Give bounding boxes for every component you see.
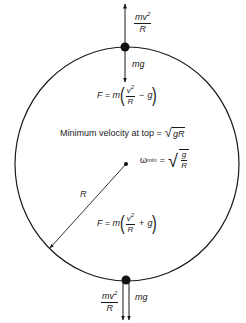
omega-min-equation: ωmin = √gR <box>140 149 190 170</box>
minimum-velocity-equation: Minimum velocity at top = √gR <box>60 126 185 139</box>
top-centripetal-force-label: mv2 R <box>134 11 151 34</box>
bottom-mass-dot <box>122 276 131 285</box>
center-dot <box>124 162 128 166</box>
bottom-net-force-equation: F = m ( v2R + g ) <box>97 212 157 234</box>
radius-label: R <box>80 190 87 199</box>
top-weight-label: mg <box>132 60 145 69</box>
radius-arrow <box>50 164 126 248</box>
bottom-weight-label: mg <box>135 293 148 302</box>
diagram-canvas <box>0 0 246 323</box>
top-mass-dot <box>121 43 130 52</box>
bottom-centripetal-force-label: mv2 R <box>101 290 118 313</box>
top-net-force-equation: F = m ( v2R − g ) <box>97 84 157 106</box>
